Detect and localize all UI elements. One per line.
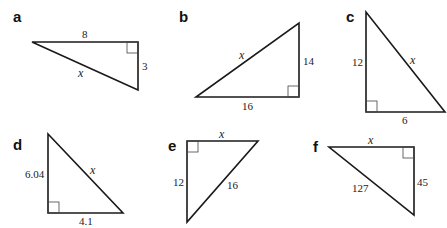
triangle-a-shape [32, 42, 138, 90]
side-hyp-b: x [238, 48, 245, 62]
side-bottom-c: 6 [402, 114, 408, 126]
side-hyp-c: x [409, 53, 416, 67]
side-top-a: 8 [82, 28, 88, 40]
side-right-a: 3 [142, 60, 148, 72]
right-angle-marker [403, 147, 414, 158]
side-left-c: 12 [352, 56, 363, 68]
side-left-e: 12 [173, 176, 184, 188]
triangle-b: b x 14 16 [179, 8, 315, 112]
triangle-e-shape [187, 141, 258, 222]
right-angle-marker [127, 42, 138, 53]
side-top-f: x [367, 133, 374, 147]
side-hyp-a: x [77, 66, 84, 80]
side-hyp-f: 127 [352, 182, 369, 194]
side-right-f: 45 [417, 176, 429, 188]
triangle-c: c 12 x 6 [346, 8, 445, 126]
side-bottom-d: 4.1 [79, 215, 93, 227]
side-hyp-d: x [89, 163, 96, 177]
side-top-e: x [218, 127, 225, 141]
problem-label-c: c [346, 8, 354, 25]
problem-label-b: b [179, 8, 188, 25]
side-hyp-e: 16 [227, 179, 239, 191]
triangle-a: a 8 3 x [13, 8, 148, 90]
side-bottom-b: 16 [242, 100, 254, 112]
side-right-b: 14 [303, 55, 315, 67]
problem-label-a: a [13, 8, 22, 25]
right-angle-marker [187, 141, 198, 152]
right-angle-marker [48, 202, 59, 213]
triangle-d-shape [48, 134, 123, 213]
right-angle-marker [366, 101, 377, 112]
problem-label-d: d [13, 136, 22, 153]
triangle-e: e x 12 16 [168, 127, 258, 222]
triangle-f-shape [329, 147, 414, 215]
triangle-f: f x 127 45 [313, 133, 429, 215]
problem-label-f: f [313, 138, 319, 155]
side-left-d: 6.04 [25, 168, 45, 180]
problem-label-e: e [168, 137, 176, 154]
right-angle-marker [288, 86, 299, 97]
triangle-b-shape [196, 23, 299, 97]
triangle-c-shape [366, 12, 445, 112]
triangle-d: d 6.04 x 4.1 [13, 134, 123, 227]
